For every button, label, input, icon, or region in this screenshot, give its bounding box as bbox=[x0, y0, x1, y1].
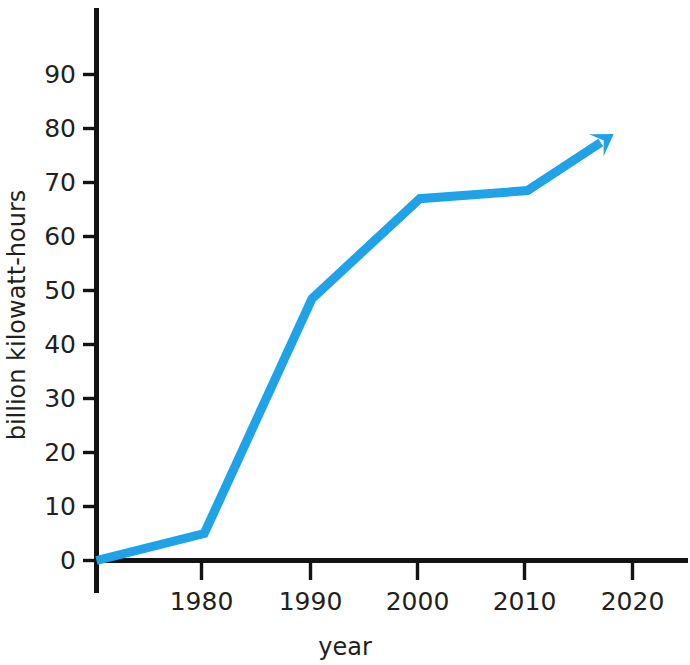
x-tick-label-2010: 2010 bbox=[493, 587, 557, 616]
y-axis-title: billion kilowatt-hours bbox=[3, 190, 31, 441]
x-tick-label-1990: 1990 bbox=[279, 587, 343, 616]
y-tick-label-10: 10 bbox=[44, 492, 76, 521]
line-chart-figure: 0 10 20 30 40 50 60 70 80 90 1980 1990 2… bbox=[0, 0, 690, 665]
x-tick-label-2020: 2020 bbox=[601, 587, 665, 616]
y-tick-label-40: 40 bbox=[44, 330, 76, 359]
x-tick-label-1980: 1980 bbox=[170, 587, 234, 616]
chart-canvas: 0 10 20 30 40 50 60 70 80 90 1980 1990 2… bbox=[0, 0, 690, 665]
y-tick-label-50: 50 bbox=[44, 276, 76, 305]
y-tick-label-80: 80 bbox=[44, 114, 76, 143]
y-tick-label-30: 30 bbox=[44, 384, 76, 413]
y-tick-label-90: 90 bbox=[44, 60, 76, 89]
y-tick-label-20: 20 bbox=[44, 438, 76, 467]
y-tick-label-70: 70 bbox=[44, 168, 76, 197]
chart-background bbox=[0, 0, 690, 665]
x-tick-label-2000: 2000 bbox=[386, 587, 450, 616]
y-tick-label-60: 60 bbox=[44, 222, 76, 251]
x-axis-title: year bbox=[318, 633, 372, 661]
y-tick-label-0: 0 bbox=[60, 546, 76, 575]
